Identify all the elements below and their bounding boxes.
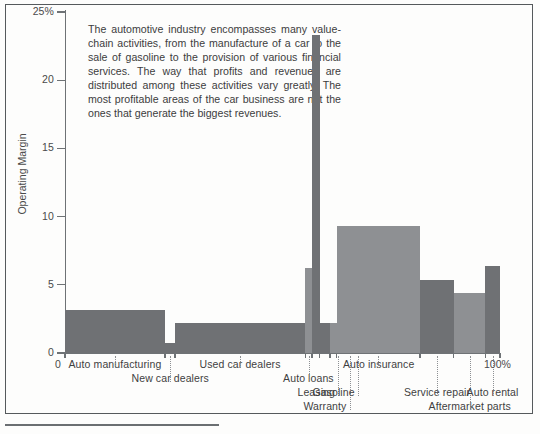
x-tick-mark [311,353,312,358]
label-leader-line [470,356,471,410]
label-leader-line [240,356,241,368]
x-tick-mark [453,353,454,358]
label-leader-line [309,356,310,382]
bar-gasoline[interactable] [330,323,337,353]
bar-auto-loans[interactable] [305,268,312,353]
bar-auto-insurance[interactable] [337,226,420,353]
x-tick-mark [329,353,330,358]
bar-series [0,0,540,353]
category-label-warranty: Warranty [303,400,346,412]
x-axis-line [64,353,501,354]
x-tick-mark [305,353,306,358]
chart-plot-area: The automotive industry encompasses many… [0,0,540,434]
x-axis-min-label: 0 [55,358,61,370]
bar-auto-manufacturing[interactable] [65,310,165,353]
bar-warranty[interactable] [320,323,330,353]
label-leader-line [170,356,171,382]
bar-service-repair[interactable] [420,280,454,353]
x-tick-mark [164,353,165,358]
bar-aftermarket-parts[interactable] [454,293,485,353]
label-leader-line [115,356,116,368]
bar-used-car-dealers[interactable] [175,323,305,353]
x-tick-mark [64,353,65,358]
x-tick-mark [319,353,320,358]
x-axis-max-label: 100% [484,358,511,370]
figure-container: The automotive industry encompasses many… [0,0,540,434]
bar-new-car-dealers[interactable] [165,343,175,353]
x-tick-mark [419,353,420,358]
category-label-gasoline: Gasoline [312,386,354,398]
label-leader-line [378,356,379,368]
x-tick-mark [174,353,175,358]
x-tick-mark [336,353,337,358]
bar-auto-rental[interactable] [485,266,500,353]
label-leader-line [437,356,438,396]
bar-leasing[interactable] [312,35,320,353]
